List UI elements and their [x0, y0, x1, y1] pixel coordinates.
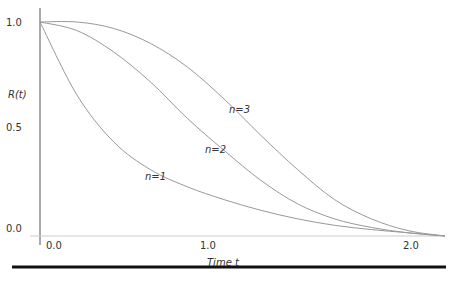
label-n1: n=1 [145, 171, 166, 182]
curves [40, 22, 445, 236]
curve-n1 [40, 22, 445, 236]
x-tick-2: 2.0 [403, 240, 419, 251]
reliability-chart: 1.0 0.5 0.0 R(t) 0.0 1.0 2.0 Time t n=1 … [0, 0, 458, 288]
curve-n3 [40, 22, 445, 236]
x-tick-0: 0.0 [46, 240, 62, 251]
x-axis-label: Time t [207, 257, 240, 268]
label-n2: n=2 [205, 144, 226, 155]
x-tick-1: 1.0 [200, 240, 216, 251]
y-axis-label: R(t) [8, 89, 27, 100]
y-tick-0: 0.0 [6, 223, 22, 234]
label-n3: n=3 [229, 104, 250, 115]
y-tick-1: 1.0 [6, 17, 22, 28]
y-tick-05: 0.5 [6, 122, 22, 133]
curve-n2 [40, 22, 445, 236]
